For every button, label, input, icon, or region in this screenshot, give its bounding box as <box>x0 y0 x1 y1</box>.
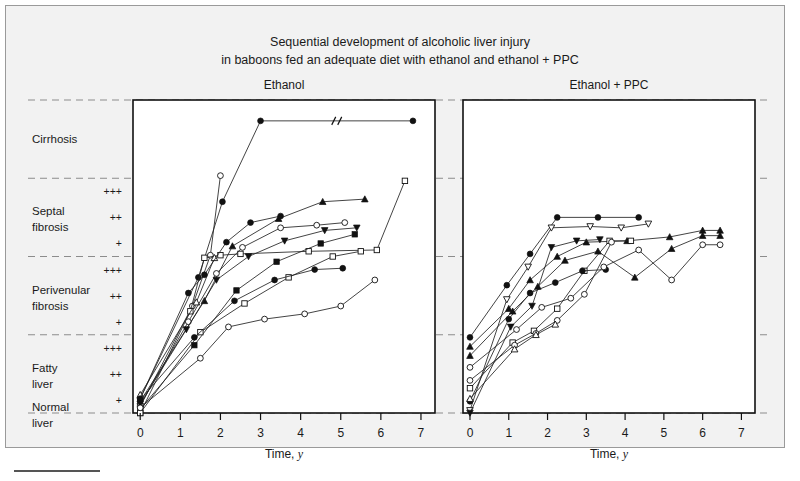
panel-1-xtick-label-1: 1 <box>505 426 512 440</box>
data-point-11-3 <box>262 316 268 322</box>
data-point-10-1 <box>191 334 197 340</box>
panel-1-xtick-label-4: 4 <box>622 426 629 440</box>
data-point-8-4 <box>601 264 607 270</box>
grade-label-2-0: +++ <box>104 264 122 276</box>
data-point-5-3 <box>224 239 230 245</box>
data-point-6-3 <box>552 280 558 286</box>
data-point-11-4 <box>302 311 308 317</box>
y-category-label-0: Cirrhosis <box>32 133 78 145</box>
data-point-1-3 <box>218 173 224 179</box>
data-point-8-3 <box>274 259 279 264</box>
panel-0-xtick-label-3: 3 <box>257 426 264 440</box>
data-point-0-3 <box>258 118 264 124</box>
data-point-11-2 <box>226 324 232 330</box>
grade-label-3-1: ++ <box>110 368 122 380</box>
panel-0-plot-area <box>133 100 435 413</box>
data-point-2-2 <box>202 255 207 260</box>
data-point-8-2 <box>539 304 545 310</box>
y-category-sublabel-4: liver <box>32 417 53 429</box>
data-point-5-5 <box>278 213 284 219</box>
data-point-10-0 <box>137 397 143 403</box>
data-point-0-3 <box>554 214 560 220</box>
data-point-5-4 <box>581 291 587 297</box>
data-point-6-5 <box>314 222 320 228</box>
panel-1-xtick-label-7: 7 <box>738 426 745 440</box>
figure-title-line2: in baboons fed an adequate diet with eth… <box>221 53 579 67</box>
data-point-11-5 <box>338 303 344 309</box>
panel-0-xaxis-title-var: y <box>297 447 304 461</box>
data-point-0-5 <box>636 214 642 220</box>
grade-label-1-2: + <box>116 237 122 249</box>
data-point-8-8 <box>717 242 723 248</box>
data-point-8-2 <box>234 288 239 293</box>
data-point-6-3 <box>240 244 246 250</box>
panel-1-plot-area <box>463 100 755 413</box>
y-category-sublabel-3: liver <box>32 378 53 390</box>
panel-0-xtick-label-2: 2 <box>217 426 224 440</box>
data-point-9-5 <box>358 249 363 254</box>
data-point-10-4 <box>312 267 318 273</box>
grade-label-3-2: + <box>116 394 122 406</box>
panel-1-xtick-label-6: 6 <box>699 426 706 440</box>
data-point-8-3 <box>568 295 574 301</box>
data-point-5-1 <box>185 290 191 296</box>
y-category-label-4: Normal <box>32 401 69 413</box>
data-point-10-5 <box>340 265 346 271</box>
panel-1-xtick-label-2: 2 <box>544 426 551 440</box>
panel-0-xtick-label-4: 4 <box>297 426 304 440</box>
data-point-9-4 <box>330 254 335 259</box>
panel-1-title: Ethanol + PPC <box>569 78 648 92</box>
data-point-6-4 <box>278 225 284 231</box>
data-point-8-5 <box>352 232 357 237</box>
panel-0-xtick-label-5: 5 <box>337 426 344 440</box>
y-category-label-1: Septal <box>32 205 65 217</box>
data-point-6-2 <box>527 290 533 296</box>
grade-label-2-2: + <box>116 316 122 328</box>
panel-1-xaxis-title-var: y <box>622 447 629 461</box>
data-point-0-2 <box>220 199 226 205</box>
y-category-label-3: Fatty <box>32 362 58 374</box>
data-point-5-5 <box>609 239 615 245</box>
panel-0-xtick-label-1: 1 <box>177 426 184 440</box>
panel-0-title: Ethanol <box>264 78 305 92</box>
grade-label-1-1: ++ <box>110 211 122 223</box>
panel-0-xaxis-title: Time, y <box>265 447 304 461</box>
y-category-label-2: Perivenular <box>32 284 90 296</box>
data-point-11-6 <box>372 277 378 283</box>
data-point-8-1 <box>514 327 520 333</box>
data-point-8-0 <box>467 364 473 370</box>
panel-1-xtick-label-5: 5 <box>661 426 668 440</box>
panel-1-xaxis-title: Time, y <box>590 447 629 461</box>
data-point-10-3 <box>272 277 278 283</box>
data-point-4-3 <box>555 306 560 311</box>
chart-canvas: Sequential development of alcoholic live… <box>0 0 800 481</box>
data-point-0-1 <box>504 282 510 288</box>
data-point-6-2 <box>214 271 220 277</box>
data-point-11-1 <box>197 355 203 361</box>
data-point-6-6 <box>342 220 348 226</box>
axis-layer: 01234567Time, y01234567Time, y <box>137 413 745 461</box>
data-point-8-7 <box>700 242 706 248</box>
data-point-5-2 <box>201 272 207 278</box>
grade-label-1-0: +++ <box>104 185 122 197</box>
data-point-8-5 <box>636 247 642 253</box>
data-point-6-1 <box>185 319 191 325</box>
data-point-6-4 <box>580 268 586 274</box>
y-category-label-layer: CirrhosisSeptalfibrosis++++++Perivenular… <box>32 133 122 429</box>
figure-root: Sequential development of alcoholic live… <box>0 0 800 481</box>
panel-0-xtick-label-7: 7 <box>418 426 425 440</box>
y-category-sublabel-2: fibrosis <box>32 300 69 312</box>
data-point-2-4 <box>238 251 243 256</box>
data-point-9-2 <box>242 301 247 306</box>
data-point-5-0 <box>467 377 473 383</box>
data-point-2-6 <box>374 247 379 252</box>
panel-0-xtick-label-0: 0 <box>137 426 144 440</box>
grade-label-3-0: +++ <box>104 342 122 354</box>
panel-0-xtick-label-6: 6 <box>378 426 385 440</box>
data-point-0-4 <box>595 214 601 220</box>
panel-layer: EthanolEthanol + PPC <box>133 78 755 413</box>
data-point-2-7 <box>402 178 407 183</box>
data-point-11-0 <box>137 405 143 411</box>
data-point-0-4 <box>410 118 416 124</box>
data-point-5-4 <box>248 220 254 226</box>
